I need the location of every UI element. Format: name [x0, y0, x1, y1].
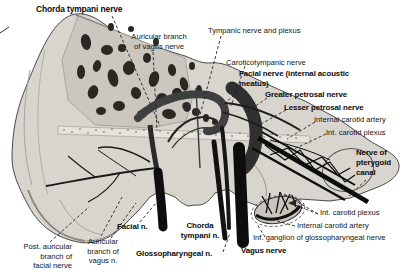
label-int-carotid-plexus-upper: Int. carotid plexus: [326, 128, 386, 138]
label-nerve-of-pterygoid-canal: Nerve of pterygoid canal: [356, 148, 391, 178]
label-lesser-petrosal-nerve: Lesser petrosal nerve: [284, 103, 363, 113]
facial-trunk: [158, 172, 163, 227]
label-post-auricular-branch-facial: Post. auricular branch of facial nerve: [2, 242, 72, 271]
label-chorda-tympani-n-bottom: Chorda tympani n.: [163, 221, 237, 241]
label-tympanic-nerve-plexus: Tympanic nerve and plexus: [208, 26, 300, 36]
label-glossopharyngeal-n: Glossopharyngeal n.: [136, 249, 212, 259]
label-internal-carotid-artery-upper: Internal carotid artery: [314, 115, 386, 125]
label-auricular-branch-vagus-top: Auricular branch of vagus nerve: [118, 32, 200, 51]
label-inf-ganglion-glossopharyngeal: Inf. ganglion of glossopharyngeal nerve: [253, 233, 386, 243]
label-vagus-nerve: Vagus nerve: [241, 246, 286, 256]
edge-tick: [0, 27, 9, 33]
label-chorda-tympani-nerve: Chorda tympani nerve: [36, 4, 122, 15]
label-facial-n-bottom: Facial n.: [117, 222, 148, 232]
label-caroticotympanic-nerve: Caroticotympanic nerve: [226, 58, 306, 68]
label-internal-carotid-artery-lower: Internal carotid artery: [297, 221, 369, 231]
anatomical-figure-temporal-bone: Chorda tympani nerve Auricular branch of…: [0, 0, 420, 275]
label-int-carotid-plexus-lower: Int. carotid plexus: [320, 208, 380, 218]
label-greater-petrosal-nerve: Greater petrosal nerve: [265, 90, 347, 100]
label-facial-nerve-internal-acoustic-meatus: Facial nerve (internal acoustic meatus): [239, 69, 371, 89]
vagus-trunk: [239, 148, 243, 242]
label-auricular-branch-vagus-bottom: Auricular branch of vagus n.: [79, 237, 127, 266]
